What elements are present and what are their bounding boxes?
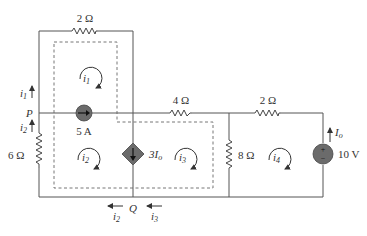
svg-text:3Io: 3Io bbox=[148, 148, 162, 162]
svg-text:i1: i1 bbox=[83, 72, 90, 86]
resistor-8-ohm: 8 Ω bbox=[226, 140, 254, 168]
resistor-2-ohm-right: 2 Ω bbox=[255, 94, 281, 116]
svg-text:i2: i2 bbox=[20, 121, 27, 135]
node-Q-label: Q bbox=[129, 202, 137, 214]
mesh-i1: i1 bbox=[80, 67, 102, 88]
svg-text:8 Ω: 8 Ω bbox=[238, 149, 254, 161]
svg-text:i3: i3 bbox=[179, 151, 186, 165]
svg-text:4 Ω: 4 Ω bbox=[173, 94, 189, 106]
svg-text:10 V: 10 V bbox=[338, 148, 360, 160]
mesh-i3: i3 bbox=[175, 148, 197, 169]
branch-i1-arrow: i1 bbox=[20, 86, 32, 101]
branch-i3-bottom-arrow: i3 bbox=[147, 206, 162, 224]
circuit-diagram: 2 Ω 4 Ω 2 Ω 6 Ω 8 Ω 5 A 3Io + − 10 V bbox=[0, 0, 367, 236]
branch-i2-arrow: i2 bbox=[20, 120, 32, 135]
voltage-source-10V: + − 10 V bbox=[313, 144, 360, 164]
resistor-2-ohm-top: 2 Ω bbox=[72, 12, 98, 34]
current-source-5A: 5 A bbox=[76, 105, 92, 137]
mesh-i4: i4 bbox=[269, 148, 291, 169]
svg-text:i3: i3 bbox=[151, 210, 158, 224]
branch-i2-bottom-arrow: i2 bbox=[108, 206, 123, 224]
svg-text:−: − bbox=[321, 154, 326, 163]
resistor-6-ohm: 6 Ω bbox=[8, 133, 42, 168]
svg-text:Io: Io bbox=[334, 126, 343, 140]
svg-text:5 A: 5 A bbox=[76, 125, 92, 137]
svg-text:6 Ω: 6 Ω bbox=[8, 149, 24, 161]
mesh-i2: i2 bbox=[78, 148, 100, 169]
svg-text:i2: i2 bbox=[82, 151, 89, 165]
current-Io-arrow: Io bbox=[330, 126, 343, 142]
svg-text:2 Ω: 2 Ω bbox=[260, 94, 276, 106]
svg-text:i1: i1 bbox=[20, 87, 27, 101]
svg-text:i2: i2 bbox=[113, 210, 120, 224]
node-P-label: P bbox=[25, 107, 33, 119]
resistor-4-ohm: 4 Ω bbox=[170, 94, 192, 116]
svg-text:i4: i4 bbox=[273, 151, 280, 165]
dependent-current-source: 3Io bbox=[122, 143, 162, 165]
svg-text:+: + bbox=[321, 145, 326, 154]
svg-text:2 Ω: 2 Ω bbox=[77, 12, 93, 24]
